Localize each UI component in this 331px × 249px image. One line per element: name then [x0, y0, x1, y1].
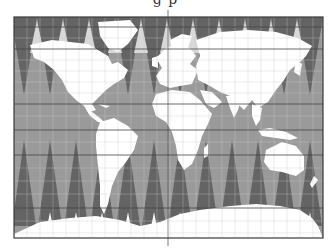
- world-map: [0, 0, 331, 249]
